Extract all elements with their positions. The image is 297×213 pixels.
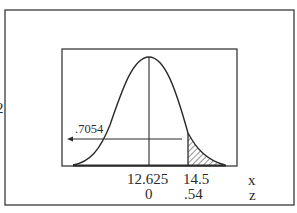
x-tick-cutoff: 14.5 xyxy=(183,172,209,187)
z-tick-mean: 0 xyxy=(145,187,153,202)
normal-curve-figure: 2 .7054 12.625 14.5 x 0 .54 z xyxy=(0,0,297,213)
area-value-label: .7054 xyxy=(75,122,103,137)
z-tick-cutoff: .54 xyxy=(184,187,203,202)
x-tick-mean: 12.625 xyxy=(127,172,168,187)
z-axis-name: z xyxy=(249,188,256,203)
arrow-head-icon xyxy=(67,137,73,142)
x-axis-name: x xyxy=(248,173,256,188)
shaded-tail-region xyxy=(188,133,225,165)
